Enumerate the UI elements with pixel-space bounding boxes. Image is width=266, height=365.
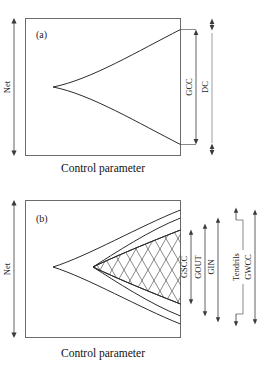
panel-a-net-label: Net bbox=[2, 80, 12, 93]
panel-b-gin-upper-curve bbox=[93, 218, 181, 267]
panel-b: Net GSCC GOUT GIN bbox=[0, 180, 266, 365]
panel-b-gwcc-arrow bbox=[253, 210, 257, 325]
panel-b-gscc-label: GSCC bbox=[179, 256, 189, 279]
panel-b-xaxis-label: Control parameter bbox=[61, 347, 145, 360]
panel-a-plot-frame bbox=[26, 19, 181, 156]
panel-b-gin-arrow bbox=[216, 218, 220, 323]
panel-b-gin-label: GIN bbox=[206, 259, 216, 274]
panel-b-tag: (b) bbox=[36, 213, 48, 225]
panel-b-net-axis-arrow bbox=[11, 200, 16, 338]
panel-a-dc-arrow bbox=[210, 19, 215, 156]
panel-a-dc-label: DC bbox=[200, 81, 210, 93]
panel-a: Net GCC DC (a) bbox=[0, 0, 266, 180]
panel-a-canvas: Net GCC DC (a) bbox=[0, 0, 266, 180]
panel-a-xaxis-label: Control parameter bbox=[61, 162, 145, 175]
panel-b-canvas: Net GSCC GOUT GIN bbox=[0, 180, 266, 365]
panel-b-tendrils-label: Tendrils bbox=[231, 253, 241, 281]
panel-b-gwcc-label: GWCC bbox=[243, 254, 253, 280]
panel-a-gcc-upper-curve bbox=[53, 30, 181, 88]
panel-b-plot-frame bbox=[26, 201, 181, 338]
panel-b-gscc-crosshatch bbox=[60, 200, 248, 340]
panel-b-gout-lower-curve bbox=[93, 267, 181, 316]
figure-root: Net GCC DC (a) bbox=[0, 0, 266, 365]
panel-a-net-axis-arrow bbox=[11, 18, 16, 156]
panel-b-gwcc-lower-curve bbox=[53, 267, 181, 324]
panel-b-gout-label: GOUT bbox=[193, 254, 203, 278]
panel-b-net-label: Net bbox=[2, 262, 12, 275]
panel-a-tag: (a) bbox=[36, 29, 47, 41]
panel-b-gwcc-upper-curve bbox=[53, 210, 181, 267]
panel-a-gcc-label: GCC bbox=[184, 78, 194, 96]
panel-b-gscc-lower-outline bbox=[93, 267, 181, 304]
panel-a-gcc-lower-curve bbox=[53, 87, 181, 145]
